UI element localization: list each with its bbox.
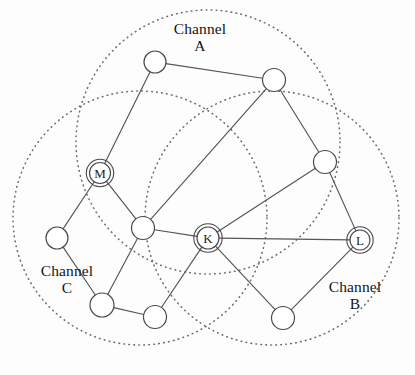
node-n11[interactable] [272,307,295,330]
node-l[interactable]: L [347,227,373,253]
channel-label-a: Channel A [140,20,260,55]
node-circle [314,151,337,174]
node-label: L [356,233,364,248]
node-label: M [94,166,106,181]
edge-n1-n2 [166,64,263,79]
edge-n4-L [330,172,356,230]
edge-K-L [219,238,350,240]
channel-a-word: Channel [140,20,260,37]
edge-K-n11 [216,246,276,310]
channel-c-word: Channel [12,262,122,279]
network-coverage-diagram: MKL Channel A Channel C Channel B [0,0,415,375]
node-label: K [203,231,213,246]
node-n4[interactable] [314,151,337,174]
channel-b-word: Channel [300,278,410,295]
diagram-canvas: MKL [0,0,415,375]
edge-n1-M [105,72,150,164]
channel-label-c: Channel C [12,262,122,297]
node-k[interactable]: K [194,224,222,252]
edge-n2-n4 [280,90,319,152]
channel-b-id: B [300,295,410,312]
edge-n9-n10 [114,308,144,315]
node-n6[interactable] [132,217,155,240]
node-circle [272,307,295,330]
node-n5[interactable] [46,227,68,249]
edge-M-n5 [63,182,94,229]
edge-M-n6 [106,181,135,219]
edge-n6-K [154,230,197,237]
node-m[interactable]: M [86,159,113,186]
node-circle [144,306,167,329]
node-circle [263,69,286,92]
channel-label-b: Channel B [300,278,410,313]
node-circle [46,227,68,249]
node-n2[interactable] [263,69,286,92]
channel-c-id: C [12,279,122,296]
node-circle [132,217,155,240]
channel-a-id: A [140,37,260,54]
node-n10[interactable] [144,306,167,329]
edge-n10-K [161,247,201,307]
